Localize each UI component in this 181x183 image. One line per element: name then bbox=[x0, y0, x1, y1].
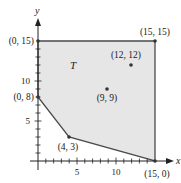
vertex-label-0-8: (0, 8) bbox=[13, 92, 34, 103]
vertex-label-15-0: (15, 0) bbox=[144, 169, 169, 180]
x-tick-10: 10 bbox=[112, 167, 122, 177]
vertex-label-15-15: (15, 15) bbox=[140, 27, 170, 38]
point-label-12-12: (12, 12) bbox=[111, 50, 141, 61]
plot-canvas: 5 10 5 10 x y (0, 15) (15, 15) (15, 0) (… bbox=[0, 0, 181, 183]
point-label-9-9: (9, 9) bbox=[97, 93, 118, 104]
y-tick-5: 5 bbox=[26, 116, 31, 126]
vertex-label-0-15: (0, 15) bbox=[9, 36, 34, 47]
y-axis-label: y bbox=[34, 5, 40, 16]
x-axis-label: x bbox=[175, 155, 181, 166]
x-tick-5: 5 bbox=[75, 167, 80, 177]
region-label-T: T bbox=[70, 59, 77, 71]
y-tick-10: 10 bbox=[21, 76, 31, 86]
x-axis-arrow-icon bbox=[166, 158, 174, 164]
y-axis-arrow-icon bbox=[35, 18, 41, 26]
vertex-label-4-3: (4, 3) bbox=[58, 142, 79, 153]
